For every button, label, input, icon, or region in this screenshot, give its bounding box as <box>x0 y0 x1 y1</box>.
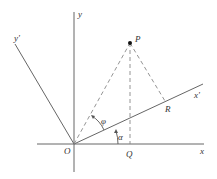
dashed-pr <box>130 43 165 101</box>
y-prime-axis <box>15 44 74 144</box>
angle-alpha-label: α <box>118 132 123 142</box>
diagram-svg: y x y' x' O P Q R φ α <box>0 0 217 179</box>
y-axis-label: y <box>77 9 82 19</box>
x-prime-label: x' <box>193 90 201 100</box>
rotated-axes-diagram: y x y' x' O P Q R φ α <box>0 0 217 179</box>
dashed-op <box>74 43 130 144</box>
point-p-marker <box>128 41 132 45</box>
point-r-label: R <box>164 104 171 114</box>
origin-label: O <box>64 146 71 156</box>
y-prime-label: y' <box>13 33 21 43</box>
point-q-label: Q <box>126 149 133 159</box>
angle-phi-label: φ <box>101 116 106 126</box>
point-p-label: P <box>134 34 141 44</box>
x-prime-axis <box>74 84 203 144</box>
x-axis-label: x <box>199 146 204 156</box>
phi-arrowhead <box>91 115 95 119</box>
